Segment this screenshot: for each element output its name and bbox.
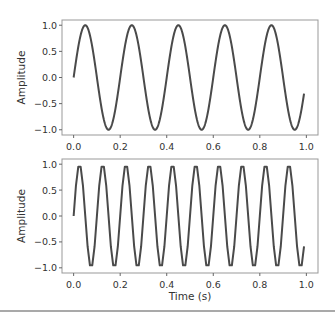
bottom-plot-sine-line [74, 167, 304, 266]
bottom-plot-ylabel: Amplitude [15, 189, 27, 243]
top-plot-xtick-label: 0.8 [252, 141, 267, 152]
bottom-plot-xlabel: Time (s) [168, 290, 212, 302]
top-plot-ytick-label: 1.0 [42, 20, 57, 31]
top-plot-ytick-label: 0.0 [42, 72, 57, 83]
figure: 0.00.20.40.60.81.0 1.00.50.0−0.5−1.0 Amp… [0, 0, 335, 322]
top-plot: 0.00.20.40.60.81.0 1.00.50.0−0.5−1.0 Amp… [15, 20, 318, 152]
bottom-plot-ytick-label: 0.5 [42, 185, 57, 196]
bottom-plot-xtick-label: 0.6 [206, 279, 221, 290]
top-plot-ytick-label: −1.0 [34, 124, 57, 135]
bottom-plot-ytick-label: 0.0 [42, 211, 57, 222]
top-plot-ytick-label: −0.5 [34, 98, 57, 109]
bottom-plot: 0.00.20.40.60.81.0 1.00.50.0−0.5−1.0 Amp… [15, 159, 318, 302]
top-plot-xtick-label: 0.0 [66, 141, 81, 152]
top-plot-ytick-label: 0.5 [42, 46, 57, 57]
bottom-plot-ytick-label: 1.0 [42, 159, 57, 170]
top-plot-sine-line [74, 25, 304, 130]
bottom-plot-ytick-label: −1.0 [34, 262, 57, 273]
bottom-plot-xtick-label: 1.0 [299, 279, 314, 290]
top-plot-xtick-label: 1.0 [299, 141, 314, 152]
top-plot-xtick-label: 0.4 [159, 141, 174, 152]
top-plot-xtick-label: 0.2 [113, 141, 128, 152]
bottom-plot-xtick-label: 0.4 [159, 279, 174, 290]
bottom-plot-xtick-label: 0.8 [252, 279, 267, 290]
bottom-plot-ytick-label: −0.5 [34, 236, 57, 247]
bottom-plot-xtick-label: 0.0 [66, 279, 81, 290]
bottom-plot-xtick-label: 0.2 [113, 279, 128, 290]
top-plot-ylabel: Amplitude [15, 51, 27, 105]
top-plot-xtick-label: 0.6 [206, 141, 221, 152]
